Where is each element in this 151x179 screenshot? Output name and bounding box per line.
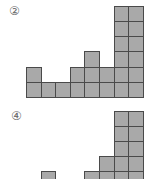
unit-square <box>114 141 130 157</box>
unit-square <box>84 171 100 179</box>
figure-label-4: ④ <box>11 110 22 122</box>
unit-square <box>128 171 144 179</box>
unit-square <box>99 156 115 172</box>
unit-square <box>128 111 144 127</box>
unit-square <box>99 171 115 179</box>
unit-square <box>114 126 130 142</box>
figure-4: ④ <box>0 0 151 179</box>
unit-square <box>114 171 130 179</box>
unit-square <box>128 141 144 157</box>
unit-square <box>41 171 57 179</box>
unit-square <box>128 156 144 172</box>
unit-square <box>128 126 144 142</box>
unit-square <box>114 111 130 127</box>
unit-square <box>114 156 130 172</box>
